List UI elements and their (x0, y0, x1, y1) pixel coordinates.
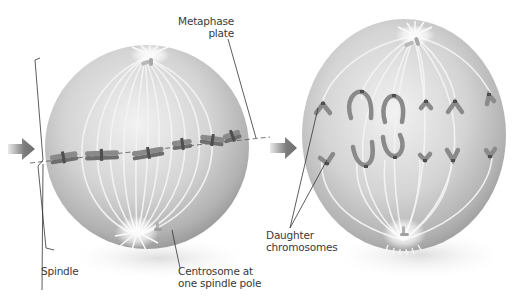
metaphase-cell (30, 42, 270, 280)
centrosome-label: Centrosome at one spindle pole (178, 265, 261, 289)
metaphase-plate-label: Metaphase plate (172, 15, 234, 39)
daughter-chromosomes-label-line2: chromosomes (266, 241, 337, 253)
spindle-label-line1: Spindle (41, 265, 79, 277)
spindle-label: Spindle (41, 265, 79, 277)
daughter-chromosomes-label: Daughter chromosomes (266, 229, 337, 253)
cell-body (302, 19, 506, 251)
process-arrow-right (270, 137, 297, 159)
process-arrow-left (8, 138, 35, 160)
metaphase-plate-label-line2: plate (172, 27, 234, 39)
centrosome-label-line1: Centrosome at (178, 265, 261, 277)
mitosis-diagram (0, 0, 516, 299)
daughter-chromosomes-label-line1: Daughter (266, 229, 337, 241)
metaphase-plate-label-line1: Metaphase (172, 15, 234, 27)
centrosome-label-line2: one spindle pole (178, 277, 261, 289)
